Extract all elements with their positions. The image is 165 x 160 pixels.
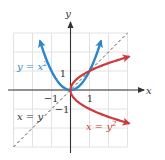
tick-label-y-neg1: −1: [55, 104, 70, 115]
label-x-equals-y: x = y: [17, 111, 43, 122]
tick-label-x-neg1: −1: [44, 93, 59, 104]
arrow-icon: [40, 41, 41, 44]
graph-figure: y x −1 1 1 −1 y = x2 x = y x = y2: [0, 0, 165, 160]
tick-label-x-pos1: 1: [87, 93, 93, 104]
label-y-equals-x-squared: y = x2: [16, 60, 48, 72]
label-x-equals-y-squared: x = y2: [86, 120, 117, 132]
x-axis-label: x: [146, 85, 152, 96]
tick-label-y-pos1: 1: [60, 68, 66, 79]
arrow-icon: [100, 41, 101, 44]
y-axis-label: y: [64, 8, 71, 19]
coordinate-plane: y x −1 1 1 −1 y = x2 x = y x = y2: [0, 0, 165, 160]
